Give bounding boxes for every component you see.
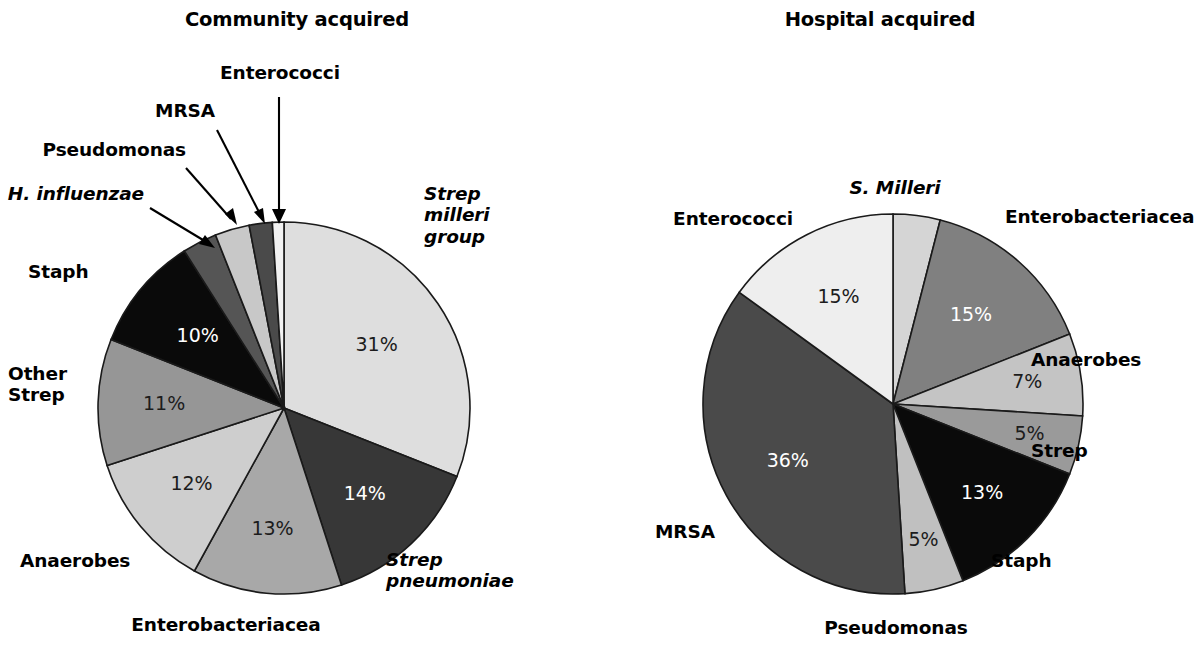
label-anaerobes-hospital: Anaerobes [1031, 349, 1141, 370]
label-other-strep: Other Strep [8, 363, 67, 406]
label-strep-milleri-group: Strep milleri group [424, 183, 490, 247]
community-pie-slice-percent: 11% [143, 392, 185, 414]
community-pie-slice-percent: 13% [251, 517, 293, 539]
label-staph-hospital: Staph [991, 550, 1052, 571]
hospital-pie-slice-percent: 5% [908, 528, 938, 550]
community-pie-slice-percent: 12% [170, 472, 212, 494]
label-pseudomonas: Pseudomonas [20, 139, 186, 160]
label-enterobacteriacea-hospital: Enterobacteriacea [1005, 206, 1194, 227]
label-strep-hospital: Strep [1031, 440, 1088, 461]
community-pie-slice-percent: 14% [344, 482, 386, 504]
label-enterococci-hospital: Enterococci [633, 208, 793, 229]
hospital-pie-slice-percent: 15% [950, 303, 992, 325]
hospital-pie-slice-percent: 15% [817, 285, 859, 307]
label-h-influenzae: H. influenzae [0, 183, 144, 204]
label-mrsa-hospital: MRSA [655, 521, 715, 542]
label-s-milleri: S. Milleri [815, 177, 975, 198]
hospital-pie-slice-percent: 7% [1012, 370, 1042, 392]
label-pseudomonas-hospital: Pseudomonas [786, 617, 1006, 638]
label-enterococci: Enterococci [182, 62, 378, 83]
label-mrsa: MRSA [80, 100, 215, 121]
community-pie-slice-percent: 10% [177, 324, 219, 346]
label-anaerobes: Anaerobes [20, 550, 130, 571]
label-staph: Staph [28, 261, 89, 282]
hospital-pie-slice-percent: 36% [767, 449, 809, 471]
community-pie-slice-percent: 31% [355, 333, 397, 355]
community-acquired-chart-panel: Community acquired 31%14%13%12%11%10% En… [0, 0, 594, 648]
hospital-pie-slice-percent: 13% [961, 481, 1003, 503]
hospital-pie-chart: 15%7%5%13%5%36%15% [593, 0, 1187, 648]
label-enterobacteriacea: Enterobacteriacea [86, 614, 366, 635]
hospital-acquired-chart-panel: Hospital acquired 15%7%5%13%5%36%15% S. … [593, 0, 1187, 648]
label-strep-pneumoniae: Strep pneumoniae [386, 549, 514, 592]
